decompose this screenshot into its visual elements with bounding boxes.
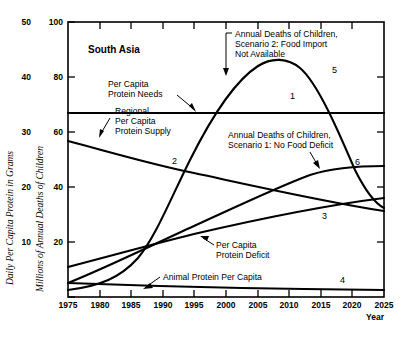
arrowhead-protein-deficit <box>200 236 209 241</box>
x-tick-2025: 2025 <box>375 300 394 310</box>
x-tick-2000: 2000 <box>217 300 236 310</box>
x-tick-1990: 1990 <box>154 300 173 310</box>
curve-label-3: 3 <box>322 211 327 221</box>
x-tick-2010: 2010 <box>280 300 299 310</box>
curve-label-6: 6 <box>355 157 360 167</box>
x-tick-1980: 1980 <box>91 300 110 310</box>
annotation-scenario2-line2: Scenario 2: Food Import <box>235 39 328 49</box>
annotation-protein-deficit-line1: Per Capita <box>216 240 257 250</box>
curve-label-2: 2 <box>172 156 177 166</box>
arrowhead-protein-needs <box>189 103 196 112</box>
x-tick-2005: 2005 <box>249 300 268 310</box>
annotation-scenario2-line1: Annual Deaths of Children, <box>235 29 338 39</box>
curve-regional-protein-supply <box>68 141 384 211</box>
annotation-scenario2-line3: Not Available <box>235 49 285 59</box>
annotation-protein-supply-line3: Protein Supply <box>115 126 172 136</box>
y-right-tick-10: 10 <box>22 237 32 247</box>
curve-annual-deaths-scenario-1 <box>68 166 384 283</box>
curve-label-1: 1 <box>290 91 295 101</box>
y-axis-right-ticks <box>377 77 384 242</box>
x-tick-2020: 2020 <box>343 300 362 310</box>
arrowhead-scenario2 <box>223 68 229 76</box>
y-left-tick-60: 60 <box>54 127 64 137</box>
curve-animal-protein-per-capita <box>68 283 384 290</box>
leader-scenario2 <box>226 33 232 72</box>
annotation-protein-supply-line1: Regional <box>115 106 149 116</box>
y-left-tick-80: 80 <box>54 72 64 82</box>
y-axis-right-title: Millions of Annual Deaths of Children <box>35 146 45 293</box>
x-axis-title: Year <box>366 312 385 322</box>
x-tick-1995: 1995 <box>185 300 204 310</box>
y-axis-left-title: Daily Per Capita Protein in Grams <box>5 151 15 286</box>
annotation-protein-needs-line2: Protein Needs <box>108 89 162 99</box>
annotation-protein-needs-line1: Per Capita <box>108 79 149 89</box>
y-right-tick-20: 20 <box>22 182 32 192</box>
plot-title: South Asia <box>88 44 140 55</box>
x-axis-bottom-ticks <box>100 290 352 297</box>
y-left-tick-100: 100 <box>49 17 63 27</box>
y-axis-left-ticks <box>68 22 75 297</box>
x-tick-2015: 2015 <box>312 300 331 310</box>
chart-canvas: 100 80 60 40 20 50 40 30 20 10 1975 1980… <box>0 0 415 342</box>
annotation-protein-deficit-line2: Protein Deficit <box>216 250 270 260</box>
y-right-tick-30: 30 <box>22 127 32 137</box>
annotation-protein-supply-line2: Per Capita <box>115 116 156 126</box>
figure-container: 100 80 60 40 20 50 40 30 20 10 1975 1980… <box>0 0 415 342</box>
y-right-tick-40: 40 <box>22 72 32 82</box>
y-left-tick-20: 20 <box>54 237 64 247</box>
x-axis-top-ticks <box>100 22 352 29</box>
x-tick-1975: 1975 <box>59 300 78 310</box>
y-left-tick-40: 40 <box>54 182 64 192</box>
y-right-tick-50: 50 <box>22 17 32 27</box>
annotation-scenario1-line2: Scenario 1: No Food Deficit <box>228 140 334 150</box>
x-tick-1985: 1985 <box>122 300 141 310</box>
arrowhead-scenario1 <box>313 160 320 169</box>
annotation-animal-protein: Animal Protein Per Capita <box>163 272 262 282</box>
curve-label-4: 4 <box>340 275 345 285</box>
curve-label-5: 5 <box>332 65 337 75</box>
annotation-scenario1-line1: Annual Deaths of Children, <box>228 130 331 140</box>
